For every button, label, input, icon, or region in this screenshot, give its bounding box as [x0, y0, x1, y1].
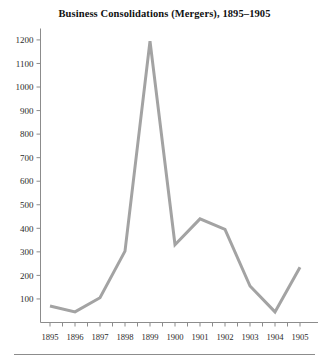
line-chart-plot: 100200300400500600700800900100011001200 … [0, 0, 329, 364]
x-axis-tick-labels: 1895189618971898189919001901190219031904… [41, 332, 308, 342]
x-tick-label: 1905 [291, 332, 308, 342]
x-tick-label: 1903 [241, 332, 258, 342]
y-tick-label: 1200 [16, 35, 35, 45]
chart-figure: Business Consolidations (Mergers), 1895–… [0, 0, 329, 364]
y-tick-label: 800 [20, 129, 34, 139]
y-tick-label: 900 [20, 106, 34, 116]
data-series-group [50, 41, 300, 312]
x-tick-label: 1904 [266, 332, 284, 342]
y-tick-label: 500 [20, 200, 34, 210]
x-tick-label: 1902 [216, 332, 233, 342]
y-tick-label: 1000 [16, 82, 35, 92]
x-tick-label: 1900 [166, 332, 183, 342]
x-axis-ticks [50, 323, 300, 327]
x-tick-label: 1898 [116, 332, 133, 342]
x-tick-label: 1897 [91, 332, 109, 342]
y-tick-label: 600 [20, 176, 34, 186]
y-axis-group: 100200300400500600700800900100011001200 [16, 29, 41, 323]
x-tick-label: 1901 [191, 332, 208, 342]
x-tick-label: 1899 [141, 332, 158, 342]
y-tick-label: 400 [20, 224, 34, 234]
x-axis-group: 1895189618971898189919001901190219031904… [41, 323, 319, 342]
footer-rule [14, 354, 315, 355]
y-tick-label: 200 [20, 271, 34, 281]
y-tick-label: 100 [20, 294, 34, 304]
x-tick-label: 1895 [41, 332, 58, 342]
y-axis-tick-labels: 100200300400500600700800900100011001200 [16, 35, 35, 304]
y-tick-label: 1100 [16, 59, 34, 69]
y-tick-label: 300 [20, 247, 34, 257]
series-line-mergers [50, 41, 300, 312]
x-tick-label: 1896 [66, 332, 84, 342]
y-tick-label: 700 [20, 153, 34, 163]
y-axis-ticks [37, 40, 41, 299]
